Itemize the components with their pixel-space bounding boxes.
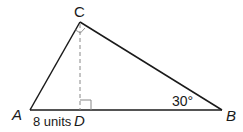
vertex-label-b: B <box>226 107 236 124</box>
side-cb <box>80 22 222 110</box>
side-ac <box>30 22 80 110</box>
vertex-label-d: D <box>74 112 85 129</box>
vertex-label-a: A <box>11 106 22 123</box>
angle-label-b: 30° <box>172 93 193 109</box>
triangle-diagram: C A B D 8 units 30° <box>0 0 243 132</box>
vertex-label-c: C <box>74 3 85 20</box>
segment-label-ad: 8 units <box>33 114 72 129</box>
right-angle-mark-d <box>80 100 91 110</box>
